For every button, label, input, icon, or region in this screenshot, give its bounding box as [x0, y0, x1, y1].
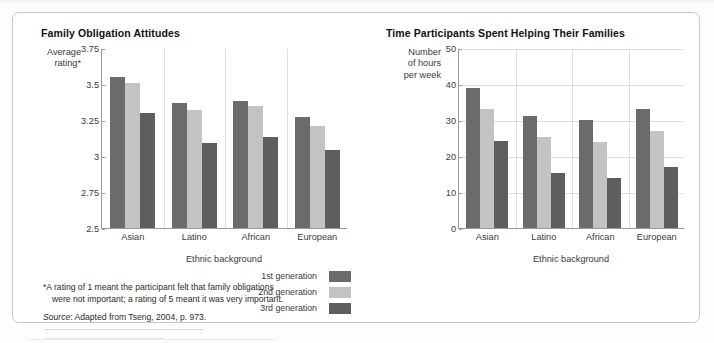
gridline-vertical [516, 49, 517, 228]
y-axis-caption-line: of hours [381, 58, 441, 69]
y-axis-tick-label: 10 [446, 188, 459, 198]
x-axis-tick-label: European [297, 232, 337, 242]
y-axis-tick-label: 3 [94, 152, 102, 162]
scan-artifact-line [46, 338, 164, 339]
y-axis-caption-line: Number [381, 47, 441, 58]
gridline-vertical [287, 49, 288, 228]
x-axis-tick-label: European [637, 232, 677, 242]
plot-area-left: 3.753.53.2532.752.5AsianLatinoAfricanEur… [101, 49, 347, 229]
y-axis-tick-mark [102, 49, 105, 50]
source-text: : Adapted from Tseng, 2004, p. 973. [70, 312, 206, 322]
y-axis-tick-mark [102, 193, 105, 194]
legend-swatch [329, 271, 351, 282]
y-axis-tick-label: 20 [446, 152, 459, 162]
bar-asian-3rd [140, 113, 155, 228]
y-axis-tick-label: 3.25 [81, 116, 102, 126]
y-axis-tick-label: 3.75 [81, 44, 102, 54]
y-axis-tick-mark [102, 157, 105, 158]
chart-title-left: Family Obligation Attitudes [41, 27, 180, 39]
y-axis-tick-mark [102, 229, 105, 230]
y-axis-tick-mark [459, 229, 462, 230]
source-label: Source [43, 312, 70, 322]
y-axis-tick-label: 2.75 [81, 188, 102, 198]
bar-asian-1st [466, 88, 480, 228]
y-axis-caption-left: Average rating* [19, 47, 81, 70]
bar-latino-2nd [187, 110, 202, 228]
y-axis-tick-mark [102, 85, 105, 86]
bar-asian-2nd [125, 83, 140, 228]
scan-artifact-line [44, 329, 204, 330]
y-axis-tick-label: 30 [446, 116, 459, 126]
y-axis-caption-line: rating* [19, 58, 81, 69]
y-axis-tick-label: 0 [451, 224, 459, 234]
bar-african-3rd [263, 137, 278, 228]
source-citation: Source: Adapted from Tseng, 2004, p. 973… [43, 312, 206, 322]
bar-latino-2nd [537, 137, 551, 228]
bar-latino-3rd [551, 173, 565, 228]
x-axis-title-right: Ethnic background [533, 254, 609, 264]
figure-frame: Family Obligation Attitudes Average rati… [12, 12, 700, 323]
y-axis-caption-line: per week [381, 70, 441, 81]
y-axis-tick-label: 2.5 [86, 224, 102, 234]
bar-african-1st [579, 120, 593, 228]
bar-european-2nd [650, 131, 664, 228]
chart-title-right: Time Participants Spent Helping Their Fa… [386, 27, 625, 39]
bar-latino-1st [172, 103, 187, 228]
y-axis-tick-label: 50 [446, 44, 459, 54]
footnote-line: *A rating of 1 meant the participant fel… [43, 282, 323, 294]
y-axis-caption-line: Average [19, 47, 81, 58]
y-axis-tick-mark [102, 121, 105, 122]
y-axis-tick-mark [459, 121, 462, 122]
bar-latino-1st [523, 116, 537, 228]
gridline-vertical [164, 49, 165, 228]
plot-area-right: 50403020100AsianLatinoAfricanEuropean [458, 49, 684, 229]
bar-african-3rd [607, 178, 621, 228]
y-axis-tick-mark [459, 157, 462, 158]
bar-asian-1st [110, 77, 125, 228]
legend-swatch [329, 303, 351, 314]
y-axis-tick-label: 40 [446, 80, 459, 90]
scan-artifact-line [27, 339, 277, 340]
y-axis-tick-mark [459, 85, 462, 86]
y-axis-tick-label: 3.5 [86, 80, 102, 90]
bar-european-3rd [664, 167, 678, 228]
y-axis-tick-mark [459, 49, 462, 50]
x-axis-tick-label: Latino [182, 232, 207, 242]
bar-african-1st [233, 101, 248, 228]
x-axis-tick-label: Latino [531, 232, 556, 242]
x-axis-tick-label: Asian [476, 232, 499, 242]
bar-asian-2nd [480, 109, 494, 228]
footnote-line: were not important; a rating of 5 meant … [43, 294, 323, 306]
bar-latino-3rd [202, 143, 217, 228]
x-axis-tick-label: Asian [121, 232, 144, 242]
bar-african-2nd [248, 106, 263, 228]
bar-european-2nd [310, 126, 325, 228]
legend-label: 1st generation [261, 271, 317, 281]
x-axis-tick-label: African [586, 232, 615, 242]
bar-african-2nd [593, 142, 607, 228]
footnote: *A rating of 1 meant the participant fel… [43, 282, 323, 305]
legend-swatch [329, 287, 351, 298]
y-axis-caption-right: Number of hours per week [381, 47, 441, 81]
bar-european-1st [295, 117, 310, 228]
gridline-vertical [629, 49, 630, 228]
bar-european-1st [636, 109, 650, 228]
scan-artifact-top [0, 0, 714, 4]
gridline-vertical [572, 49, 573, 228]
bar-asian-3rd [494, 141, 508, 229]
gridline-vertical [225, 49, 226, 228]
x-axis-title-left: Ethnic background [186, 254, 262, 264]
bar-european-3rd [325, 150, 340, 228]
y-axis-tick-mark [459, 193, 462, 194]
x-axis-tick-label: African [241, 232, 270, 242]
